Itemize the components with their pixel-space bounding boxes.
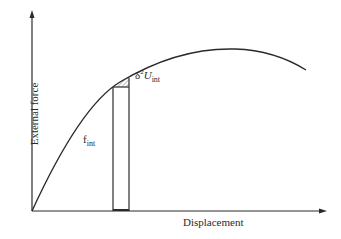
x-axis (32, 209, 327, 214)
x-axis-label: Displacement (183, 216, 243, 228)
force-displacement-diagram: External force Displacement δ2Uint fint (0, 0, 341, 239)
force-strip (113, 78, 129, 211)
increment-label: δ2Uint (135, 68, 160, 84)
y-axis-label: External force (28, 74, 40, 154)
y-axis-arrow-icon (30, 10, 35, 18)
increment-subscript: int (152, 75, 160, 84)
force-label: fint (83, 133, 95, 148)
hatched-increment (113, 78, 129, 87)
increment-variable: U (144, 69, 152, 81)
force-curve (32, 49, 306, 211)
force-subscript: int (87, 139, 95, 148)
x-axis-arrow-icon (319, 209, 327, 214)
diagram-canvas (0, 0, 341, 239)
